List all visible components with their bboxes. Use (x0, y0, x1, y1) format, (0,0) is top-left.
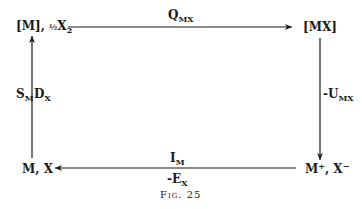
node-bottom-right: M+, X− (305, 163, 349, 175)
edge-label-right: -UMX (323, 88, 354, 100)
edge-label-left-d: DX (34, 88, 51, 100)
edge-label-bottom-top: IM (170, 152, 184, 164)
edge-label-bottom-below: -EX (167, 173, 187, 185)
node-top-left: [M], ½X2 (16, 20, 72, 32)
node-top-right: [MX] (303, 21, 337, 33)
node-bottom-left: M, X (22, 163, 53, 175)
figure-caption: Fig. 25 (160, 189, 201, 200)
edge-label-top: QMX (168, 9, 194, 21)
edge-label-left-s: SM (16, 88, 34, 100)
